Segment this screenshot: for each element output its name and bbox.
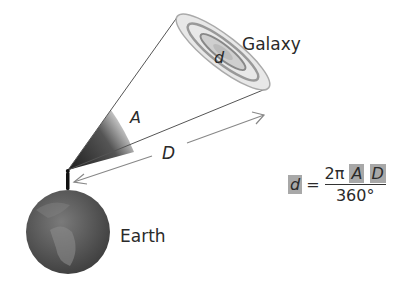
small-angle-formula: d = 2π A D 360° <box>288 164 386 205</box>
angle-wedge <box>68 110 134 170</box>
formula-angle: A <box>349 164 364 183</box>
observer-icon <box>66 169 70 190</box>
galaxy-label: Galaxy <box>242 34 301 54</box>
formula-denominator: 360° <box>336 185 375 205</box>
formula-fraction: 2π A D 360° <box>325 164 386 205</box>
formula-numerator: 2π A D <box>325 164 386 185</box>
formula-coef: 2π <box>325 164 345 183</box>
earth-icon <box>26 190 110 274</box>
diameter-label: d <box>214 48 224 67</box>
distance-label: D <box>162 143 175 163</box>
formula-distance: D <box>370 164 386 183</box>
formula-equals: = <box>306 175 319 194</box>
earth-label: Earth <box>120 226 166 246</box>
formula-lhs: d <box>288 175 302 194</box>
diagram-canvas <box>0 0 416 294</box>
angle-label: A <box>130 108 141 127</box>
